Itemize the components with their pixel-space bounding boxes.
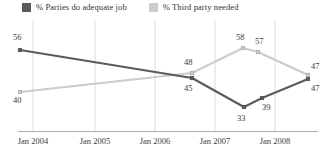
data-point-third-party-58 xyxy=(241,46,245,50)
data-point-third-party-47 xyxy=(306,73,310,77)
data-point-third-party-48 xyxy=(190,71,194,75)
series-line-parties-do-adequate-job xyxy=(20,50,308,107)
value-label-third-party-40: 40 xyxy=(13,96,22,105)
value-label-third-party-58: 58 xyxy=(236,33,245,42)
value-label-third-party-57: 57 xyxy=(255,37,264,46)
chart-container: % Parties do adequate job % Third party … xyxy=(0,0,332,155)
value-label-third-party-47: 47 xyxy=(311,62,320,71)
series-line-third-party-needed xyxy=(20,48,308,92)
value-label-parties-33: 33 xyxy=(237,114,246,123)
value-label-parties-47: 47 xyxy=(311,84,320,93)
data-point-parties-56 xyxy=(18,48,22,52)
x-tick-jan-2006: Jan 2006 xyxy=(140,136,170,146)
value-label-parties-56: 56 xyxy=(13,33,22,42)
data-point-parties-45 xyxy=(190,76,194,80)
x-tick-jan-2004: Jan 2004 xyxy=(18,136,48,146)
x-tick-jan-2008: Jan 2008 xyxy=(260,136,290,146)
data-point-parties-47 xyxy=(306,77,310,81)
data-point-third-party-57 xyxy=(256,50,260,54)
value-label-parties-39: 39 xyxy=(262,103,271,112)
x-tick-jan-2005: Jan 2005 xyxy=(80,136,110,146)
chart-svg xyxy=(0,0,332,155)
x-tick-jan-2007: Jan 2007 xyxy=(200,136,230,146)
value-label-parties-45: 45 xyxy=(184,84,193,93)
data-point-parties-33 xyxy=(242,105,246,109)
x-axis: Jan 2004 Jan 2005 Jan 2006 Jan 2007 Jan … xyxy=(0,136,332,152)
data-point-parties-39 xyxy=(260,96,264,100)
data-point-third-party-40 xyxy=(18,90,22,94)
value-label-third-party-48: 48 xyxy=(184,58,193,67)
plot-area: 56 40 48 45 58 57 33 39 47 47 xyxy=(0,0,332,155)
